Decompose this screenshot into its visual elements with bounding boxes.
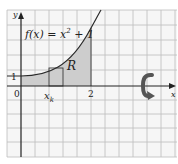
- function-rest: + 1: [71, 28, 94, 41]
- function-lhs: f(x): [24, 28, 44, 41]
- riemann-region-diagram: y x 0 1 2 xk R f(x) = x2 + 1: [0, 0, 178, 164]
- x-axis-label: x: [171, 90, 176, 99]
- function-label: f(x) = x2 + 1: [24, 27, 94, 41]
- xk-subscript: k: [50, 96, 54, 104]
- y-tick-1-label: 1: [11, 72, 17, 82]
- region-label: R: [66, 59, 76, 73]
- origin-label: 0: [14, 89, 20, 99]
- y-axis-label: y: [12, 10, 18, 19]
- function-eq: = x: [44, 28, 67, 41]
- x-tick-2-label: 2: [88, 89, 94, 99]
